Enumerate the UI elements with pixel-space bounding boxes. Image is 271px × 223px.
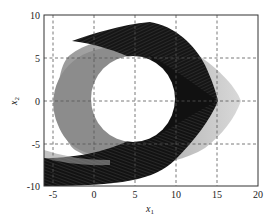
y-tick-labels: 10 5 0 -5 -10 — [27, 10, 40, 192]
y-axis-label: x2 — [8, 97, 21, 106]
xtick-5: 5 — [133, 189, 138, 200]
xtick-0: 0 — [92, 189, 97, 200]
ytick-neg5: -5 — [32, 139, 40, 150]
x-tick-labels: -5 0 5 10 15 20 — [49, 189, 263, 200]
ytick-10: 10 — [30, 10, 40, 21]
ytick-neg10: -10 — [27, 181, 40, 192]
xtick-20: 20 — [253, 189, 263, 200]
ytick-0: 0 — [35, 96, 40, 107]
chart: 10 5 0 -5 -10 -5 0 5 10 15 20 x1 x2 — [0, 0, 271, 223]
ytick-5: 5 — [35, 53, 40, 64]
x-axis-label: x1 — [145, 203, 154, 216]
xtick-15: 15 — [212, 189, 222, 200]
inner-circle — [91, 56, 175, 142]
xtick-neg5: -5 — [49, 189, 57, 200]
xtick-10: 10 — [171, 189, 181, 200]
